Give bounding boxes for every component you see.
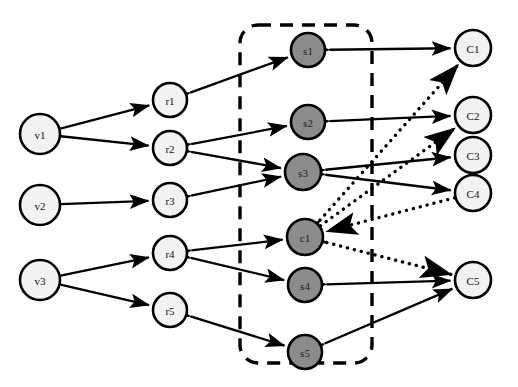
node-v2[interactable]: v2: [20, 185, 60, 225]
edge-v3-r5: [60, 285, 149, 305]
node-circle-C3: [455, 137, 491, 173]
node-circle-s2: [291, 105, 325, 139]
node-r5[interactable]: r5: [153, 293, 187, 327]
edge-r4-c1: [191, 240, 282, 251]
edge-layer: [60, 48, 458, 345]
node-s2[interactable]: s2: [291, 105, 325, 139]
edge-r5-s5: [191, 316, 285, 345]
edge-s1-C1: [329, 48, 450, 49]
node-circle-v2: [20, 185, 60, 225]
edge-v1-r2: [61, 136, 149, 145]
node-s3[interactable]: s3: [285, 154, 321, 190]
edge-v3-r4: [61, 257, 149, 275]
node-circle-C4: [455, 175, 491, 211]
node-circle-r5: [153, 293, 187, 327]
node-circle-s1: [291, 33, 325, 67]
edge-s3-C4: [325, 175, 450, 190]
edge-s4-C5: [326, 281, 450, 285]
node-circle-c1: [287, 219, 323, 255]
edge-c1-C5: [327, 243, 451, 275]
graph-svg: v1v2v3r1r2r3r4r5s1s2s3c1s4s5C1C2C3C4C5: [0, 0, 518, 387]
dashed-group-layer: [240, 25, 372, 363]
edge-r3-s3: [191, 177, 281, 196]
node-circle-r2: [153, 131, 187, 165]
node-circle-v3: [20, 260, 60, 300]
edge-s2-C2: [329, 116, 450, 121]
node-circle-s3: [285, 154, 321, 190]
node-r2[interactable]: r2: [153, 131, 187, 165]
node-r4[interactable]: r4: [153, 236, 187, 270]
node-circle-C5: [455, 262, 491, 298]
node-r3[interactable]: r3: [153, 183, 187, 217]
node-s1[interactable]: s1: [291, 33, 325, 67]
node-v1[interactable]: v1: [20, 114, 60, 154]
node-circle-C1: [455, 30, 491, 66]
node-circle-r4: [153, 236, 187, 270]
edge-s5-C5: [325, 289, 453, 344]
node-s4[interactable]: s4: [288, 268, 322, 302]
node-C5[interactable]: C5: [455, 262, 491, 298]
node-circle-s5: [288, 335, 322, 369]
node-circle-s4: [288, 268, 322, 302]
node-circle-C2: [455, 97, 491, 133]
node-c1[interactable]: c1: [287, 219, 323, 255]
edge-v1-r1: [60, 105, 149, 128]
node-circle-v1: [20, 114, 60, 154]
edge-C4-c1: [327, 198, 455, 231]
edge-r2-s3: [191, 152, 281, 168]
node-C1[interactable]: C1: [455, 30, 491, 66]
node-C3[interactable]: C3: [455, 137, 491, 173]
node-layer: v1v2v3r1r2r3r4r5s1s2s3c1s4s5C1C2C3C4C5: [20, 30, 491, 369]
edge-v2-r3: [61, 201, 149, 204]
node-s5[interactable]: s5: [288, 335, 322, 369]
node-v3[interactable]: v3: [20, 260, 60, 300]
node-circle-r1: [153, 83, 187, 117]
node-circle-r3: [153, 183, 187, 217]
edge-s3-C3: [325, 157, 450, 170]
edge-c1-C1: [320, 65, 458, 220]
dashed-boundary-box: [240, 25, 372, 363]
diagram-canvas: v1v2v3r1r2r3r4r5s1s2s3c1s4s5C1C2C3C4C5: [0, 0, 518, 387]
node-r1[interactable]: r1: [153, 83, 187, 117]
node-C4[interactable]: C4: [455, 175, 491, 211]
edge-r4-s4: [191, 258, 284, 280]
node-C2[interactable]: C2: [455, 97, 491, 133]
